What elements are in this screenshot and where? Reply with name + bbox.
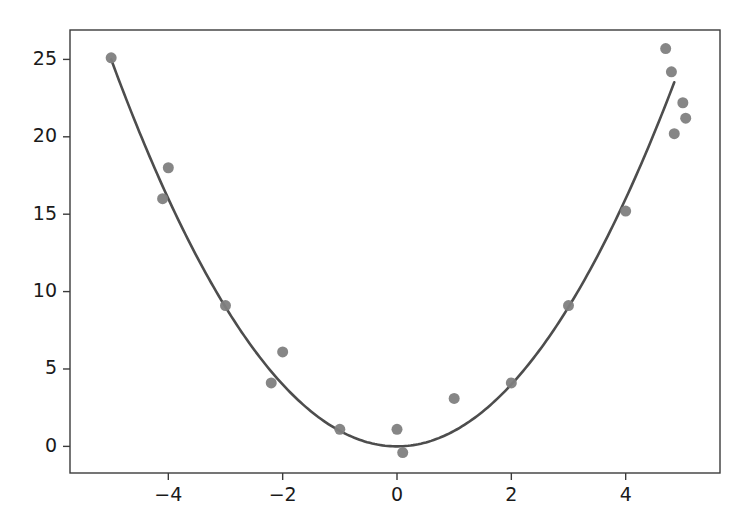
data-point [620,206,631,217]
data-point [506,377,517,388]
x-tick-label: −4 [154,483,182,505]
y-tick-label: 15 [33,202,57,224]
x-tick-label: −2 [269,483,297,505]
scatter-plot-canvas: −4−2024 0510152025 [0,0,752,532]
data-point [677,97,688,108]
y-tick-label: 10 [33,279,57,301]
data-point [334,424,345,435]
chart-figure: −4−2024 0510152025 [0,0,752,532]
fitted-curve [111,59,674,446]
data-point [220,300,231,311]
data-point [666,66,677,77]
plot-frame [70,30,720,473]
axes-frame [70,30,720,473]
data-point [397,447,408,458]
data-point [392,424,403,435]
y-tick-label: 5 [45,356,57,378]
data-point [106,52,117,63]
x-tick-label: 2 [505,483,517,505]
data-point [680,113,691,124]
data-point [163,162,174,173]
data-point [669,128,680,139]
y-tick-label: 25 [33,47,57,69]
data-point [277,346,288,357]
y-tick-label: 20 [33,124,57,146]
data-point [563,300,574,311]
data-point [449,393,460,404]
data-point [660,43,671,54]
y-axis-ticks: 0510152025 [33,47,70,456]
y-tick-label: 0 [45,434,57,456]
x-tick-label: 0 [391,483,403,505]
data-point [266,377,277,388]
data-point [157,193,168,204]
fitted-curve-group [111,59,674,446]
x-axis-ticks: −4−2024 [154,473,631,505]
x-tick-label: 4 [620,483,632,505]
